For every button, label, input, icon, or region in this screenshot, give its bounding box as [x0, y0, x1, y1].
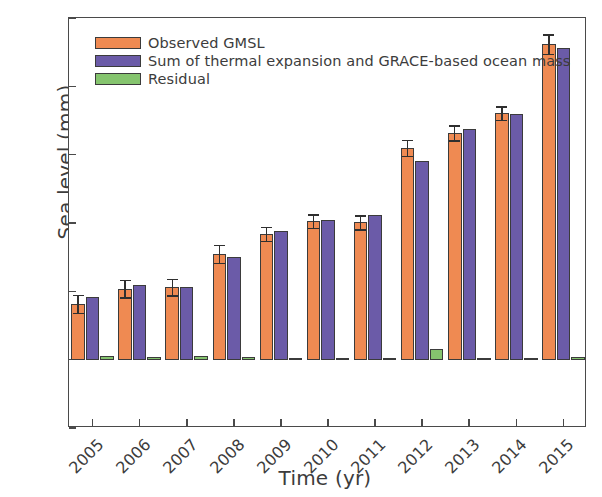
- error-bar-2005: [77, 295, 78, 313]
- bar-residual-2012: [430, 349, 444, 359]
- legend-item: Observed GMSL: [95, 34, 570, 51]
- bar-residual-2006: [147, 357, 161, 360]
- bar-residual-2008: [242, 357, 256, 360]
- error-bar-2009: [266, 227, 267, 241]
- error-cap-2012-upper: [402, 140, 413, 141]
- error-bar-2006: [124, 280, 125, 298]
- y-tick-mark: [69, 427, 76, 429]
- plot-area: Observed GMSLSum of thermal expansion an…: [68, 17, 586, 427]
- legend-label: Observed GMSL: [148, 35, 265, 51]
- error-bar-2011: [360, 215, 361, 229]
- bar-observed-2015: [542, 44, 556, 360]
- bar-sum-2011: [368, 215, 382, 359]
- bar-sum-2012: [415, 161, 429, 360]
- error-cap-2014-lower: [496, 120, 507, 121]
- legend-label: Residual: [148, 71, 210, 87]
- error-cap-2007-upper: [167, 279, 178, 280]
- legend-label: Sum of thermal expansion and GRACE-based…: [148, 53, 570, 69]
- error-cap-2006-lower: [120, 297, 131, 298]
- error-cap-2007-lower: [167, 295, 178, 296]
- bar-observed-2014: [495, 113, 509, 360]
- error-cap-2011-upper: [355, 215, 366, 216]
- x-tick-mark: [233, 419, 235, 426]
- error-cap-2005-upper: [73, 295, 84, 296]
- bar-observed-2010: [307, 221, 321, 360]
- y-tick-mark: [69, 222, 76, 224]
- bar-observed-2007: [165, 287, 179, 359]
- bar-residual-2010: [336, 358, 350, 360]
- error-bar-2008: [219, 245, 220, 263]
- error-cap-2013-lower: [449, 140, 460, 141]
- sea-level-bar-chart: Sea level (mm) Time (yr) -1001020304050 …: [0, 0, 602, 497]
- y-tick-mark: [69, 154, 76, 156]
- error-bar-2007: [172, 279, 173, 295]
- bar-sum-2006: [133, 285, 147, 359]
- x-tick-mark: [139, 419, 141, 426]
- legend-swatch-observed: [95, 37, 141, 49]
- error-bar-2010: [313, 214, 314, 228]
- bar-observed-2012: [401, 148, 415, 360]
- bar-residual-2015: [571, 357, 585, 360]
- bar-residual-2013: [477, 358, 491, 360]
- y-tick-mark: [69, 291, 76, 293]
- bar-residual-2005: [100, 356, 114, 359]
- error-cap-2013-upper: [449, 125, 460, 126]
- error-bar-2013: [454, 125, 455, 140]
- x-tick-mark: [280, 419, 282, 426]
- bar-sum-2015: [557, 48, 571, 360]
- bar-observed-2008: [213, 254, 227, 360]
- bar-sum-2008: [227, 257, 241, 360]
- x-tick-mark: [186, 419, 188, 426]
- bar-sum-2009: [274, 231, 288, 359]
- error-cap-2010-upper: [308, 214, 319, 215]
- x-tick-mark: [563, 419, 565, 426]
- chart-legend: Observed GMSLSum of thermal expansion an…: [91, 32, 574, 90]
- legend-item: Sum of thermal expansion and GRACE-based…: [95, 52, 570, 69]
- error-cap-2014-upper: [496, 106, 507, 107]
- legend-item: Residual: [95, 70, 570, 87]
- error-cap-2012-lower: [402, 156, 413, 157]
- error-bar-2012: [407, 140, 408, 156]
- error-cap-2006-upper: [120, 280, 131, 281]
- bar-observed-2006: [118, 289, 132, 360]
- error-cap-2010-lower: [308, 228, 319, 229]
- y-tick-mark: [69, 17, 76, 19]
- error-cap-2009-lower: [261, 241, 272, 242]
- x-tick-mark: [374, 419, 376, 426]
- bar-observed-2009: [260, 234, 274, 360]
- x-tick-mark: [327, 419, 329, 426]
- error-bar-2014: [501, 106, 502, 120]
- error-cap-2008-lower: [214, 263, 225, 264]
- error-cap-2009-upper: [261, 227, 272, 228]
- error-cap-2005-lower: [73, 313, 84, 314]
- bar-observed-2011: [354, 222, 368, 359]
- bar-sum-2013: [463, 129, 477, 360]
- bar-sum-2010: [321, 220, 335, 360]
- legend-swatch-sum: [95, 55, 141, 67]
- bar-sum-2014: [510, 114, 524, 360]
- bar-observed-2013: [448, 133, 462, 360]
- bar-residual-2014: [524, 358, 538, 360]
- x-tick-mark: [421, 419, 423, 426]
- bar-sum-2005: [86, 297, 100, 359]
- bar-residual-2011: [383, 358, 397, 360]
- error-cap-2008-upper: [214, 245, 225, 246]
- x-tick-mark: [92, 419, 94, 426]
- bar-residual-2009: [289, 358, 303, 360]
- bar-sum-2007: [180, 287, 194, 360]
- x-tick-mark: [468, 419, 470, 426]
- x-tick-mark: [516, 419, 518, 426]
- bar-residual-2007: [194, 356, 208, 359]
- y-tick-mark: [69, 86, 76, 88]
- legend-swatch-residual: [95, 73, 141, 85]
- error-cap-2011-lower: [355, 229, 366, 230]
